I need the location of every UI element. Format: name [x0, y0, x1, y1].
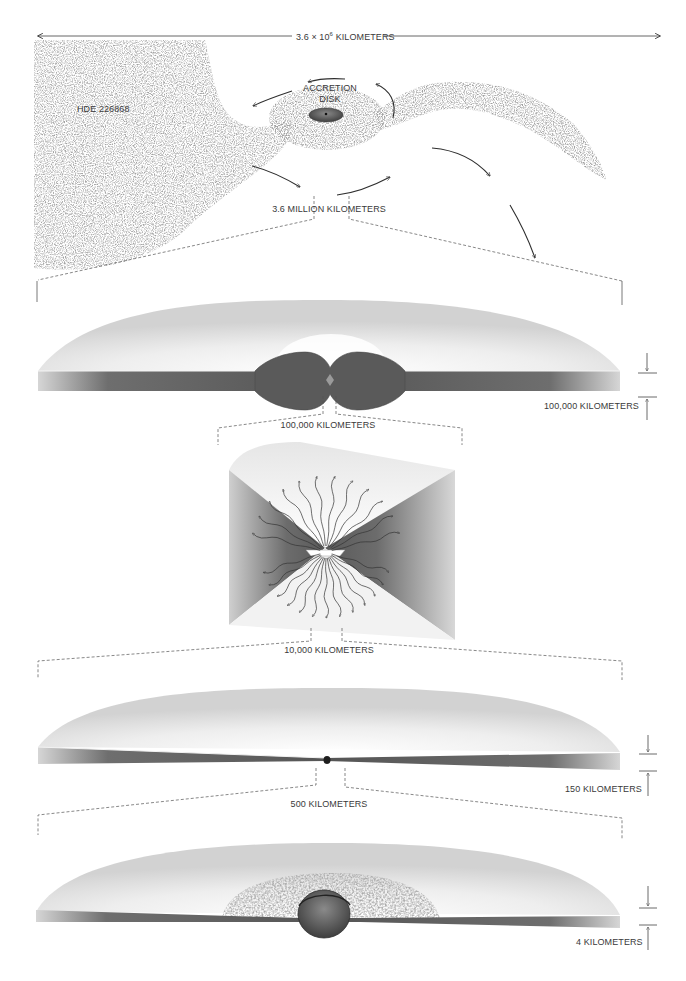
flow-arrow-bottom-right: [337, 177, 390, 195]
span-label: 3.6 × 106 KILOMETERS: [296, 31, 395, 42]
gas-stream-right: [375, 82, 606, 180]
accretion-disk-label: ACCRETION DISK: [303, 83, 357, 105]
star-label: HDE 226868: [77, 104, 130, 114]
diagram-canvas: [0, 0, 686, 981]
accretion-disk-label-line2: DISK: [303, 94, 357, 105]
panel-disk-4km: [36, 843, 657, 950]
black-hole-dot: [325, 113, 328, 116]
thickness-label-150: 150 KILOMETERS: [565, 784, 642, 794]
thickness-label-4: 4 KILOMETERS: [576, 937, 643, 947]
disk-corona-dome-2: [38, 688, 620, 752]
flow-arrow-outflow-1: [432, 148, 490, 176]
zoom-label-2: 100,000 KILOMETERS: [281, 420, 376, 430]
panel-binary-system: [34, 36, 660, 281]
flow-arrow-outflow-2: [510, 205, 535, 258]
zoom-label-4: 500 KILOMETERS: [291, 799, 368, 809]
black-hole: [324, 756, 331, 764]
accretion-disk-label-line1: ACCRETION: [303, 83, 357, 94]
zoom-label-1: 3.6 MILLION KILOMETERS: [272, 204, 386, 214]
zoom-label-3: 10,000 KILOMETERS: [284, 645, 374, 655]
thickness-label-100000: 100,000 KILOMETERS: [544, 401, 639, 411]
flow-arrow-top: [308, 79, 345, 82]
compact-object: [298, 890, 350, 938]
star-hde226868-gas: [34, 40, 292, 270]
panel-disk-500km: [38, 688, 657, 840]
thickness-marker-100000: [638, 353, 657, 420]
